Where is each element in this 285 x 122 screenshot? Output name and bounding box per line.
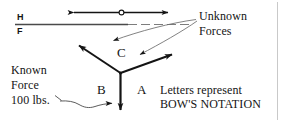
bows-notation-note-line2: BOW'S NOTATION: [160, 98, 261, 111]
fold-line-label-f: F: [17, 27, 23, 37]
known-force-leader: [55, 96, 112, 108]
force-diagram-figure: H F Unknown Forces C B A Known Force 100…: [0, 0, 285, 122]
force-vector-upper-right: [121, 55, 173, 74]
leader-line-known-tail: [55, 96, 62, 101]
top-double-arrow: [74, 10, 168, 15]
leader-line-icon-known: [60, 101, 112, 108]
bows-notation-note-line1: Letters represent: [160, 84, 242, 97]
bow-letter-a: A: [137, 83, 147, 97]
unknown-forces-label-line2: Forces: [199, 25, 232, 38]
bow-letter-b: B: [97, 83, 106, 97]
known-force-label-line2: Force: [11, 79, 39, 92]
force-vector-upper-left: [79, 46, 121, 74]
leader-line-icon-right: [140, 21, 197, 55]
bow-letter-c: C: [117, 46, 126, 60]
joint-node: [119, 72, 122, 75]
unknown-forces-label-line1: Unknown: [199, 10, 247, 23]
known-force-label-line3: 100 lbs.: [11, 94, 50, 107]
known-force-label-line1: Known: [11, 64, 47, 77]
pivot-circle-icon: [119, 10, 124, 15]
fold-line-label-h: H: [17, 13, 24, 23]
